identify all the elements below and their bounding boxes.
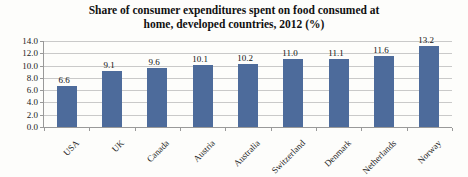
bar-value-label: 10.2 <box>230 53 260 63</box>
x-axis-tick <box>316 128 317 131</box>
y-tick-label: 6.0 <box>12 85 38 95</box>
bar-austria <box>193 65 213 127</box>
x-axis-label-denmark: Denmark <box>346 132 380 150</box>
bar-value-label: 11.6 <box>366 45 396 55</box>
y-tick-label: 2.0 <box>12 110 38 120</box>
x-axis-label-usa: USA <box>74 132 92 150</box>
x-axis-tick <box>180 128 181 131</box>
bar-value-label: 10.1 <box>185 54 215 64</box>
bar-value-label: 9.6 <box>139 57 169 67</box>
x-axis-line <box>43 127 452 128</box>
y-tick-label: 10.0 <box>12 61 38 71</box>
bar-chart: Share of consumer expenditures spent on … <box>0 0 468 177</box>
gridline <box>44 41 452 42</box>
x-axis-label-text: UK <box>110 138 126 154</box>
x-axis-label-text: Canada <box>145 138 171 164</box>
chart-title: Share of consumer expenditures spent on … <box>0 3 468 31</box>
bar-denmark <box>329 59 349 127</box>
x-axis-tick <box>135 128 136 131</box>
y-tick-label: 14.0 <box>12 36 38 46</box>
y-tick-label: 4.0 <box>12 97 38 107</box>
bar-value-label: 9.1 <box>94 60 124 70</box>
y-tick-label: 8.0 <box>12 73 38 83</box>
bar-netherlands <box>374 56 394 127</box>
x-axis-tick <box>44 128 45 131</box>
x-axis-label-text: Austria <box>191 138 217 164</box>
x-axis-tick <box>89 128 90 131</box>
x-axis-tick <box>271 128 272 131</box>
x-axis-label-text: USA <box>61 138 81 158</box>
bar-switzerland <box>283 59 303 127</box>
x-axis-label-canada: Canada <box>164 132 191 150</box>
bar-value-label: 6.6 <box>49 75 79 85</box>
chart-title-line2: home, developed countries, 2012 (%) <box>0 17 468 31</box>
bar-value-label: 11.0 <box>275 48 305 58</box>
bar-value-label: 11.1 <box>321 48 351 58</box>
x-axis-tick <box>452 128 453 131</box>
bar-norway <box>419 46 439 127</box>
x-axis-label-austria: Austria <box>210 132 237 150</box>
x-axis-label-australia: Australia <box>255 132 288 150</box>
y-tick-label: 12.0 <box>12 48 38 58</box>
chart-title-line1: Share of consumer expenditures spent on … <box>0 3 468 17</box>
x-axis-tick <box>407 128 408 131</box>
x-axis-tick <box>361 128 362 131</box>
bar-canada <box>147 68 167 127</box>
bar-uk <box>102 71 122 127</box>
x-axis-label-norway: Norway <box>436 132 465 150</box>
x-axis-tick <box>225 128 226 131</box>
x-axis-label-uk: UK <box>119 132 132 150</box>
bar-usa <box>57 86 77 127</box>
y-axis-line <box>43 41 44 128</box>
bar-australia <box>238 64 258 127</box>
y-tick-label: 0.0 <box>12 122 38 132</box>
bar-value-label: 13.2 <box>411 35 441 45</box>
